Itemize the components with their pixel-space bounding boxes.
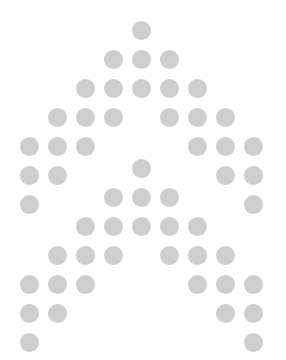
dot: [76, 79, 95, 98]
dot: [132, 217, 151, 236]
dot: [244, 137, 263, 156]
dot: [244, 166, 263, 185]
dot: [48, 246, 67, 265]
dot: [216, 275, 235, 294]
dot: [104, 246, 123, 265]
dot: [188, 137, 207, 156]
dot: [216, 246, 235, 265]
dot: [188, 217, 207, 236]
dot: [216, 137, 235, 156]
dot: [20, 195, 39, 214]
dot: [160, 217, 179, 236]
dot: [76, 275, 95, 294]
dot: [104, 217, 123, 236]
dot: [188, 79, 207, 98]
dot: [76, 137, 95, 156]
dot: [104, 50, 123, 69]
dot: [48, 137, 67, 156]
dot: [160, 188, 179, 207]
dot: [20, 304, 39, 323]
dot: [160, 108, 179, 127]
dot: [132, 79, 151, 98]
dot: [48, 166, 67, 185]
dot: [20, 166, 39, 185]
dot: [104, 108, 123, 127]
dot: [76, 246, 95, 265]
dot: [160, 246, 179, 265]
dot: [20, 137, 39, 156]
dot: [20, 333, 39, 352]
dot: [104, 79, 123, 98]
dot: [216, 304, 235, 323]
dot: [244, 304, 263, 323]
dot: [132, 188, 151, 207]
dot: [48, 108, 67, 127]
dot-pattern-canvas: [0, 0, 286, 360]
dot: [132, 50, 151, 69]
dot: [48, 304, 67, 323]
dot: [188, 275, 207, 294]
dot: [132, 21, 151, 40]
dot: [188, 246, 207, 265]
dot: [188, 108, 207, 127]
dot: [132, 159, 151, 178]
dot: [160, 50, 179, 69]
dot: [104, 188, 123, 207]
dot: [244, 333, 263, 352]
dot: [216, 166, 235, 185]
dot: [244, 275, 263, 294]
dot: [48, 275, 67, 294]
dot: [76, 108, 95, 127]
dot: [76, 217, 95, 236]
dot: [216, 108, 235, 127]
dot: [160, 79, 179, 98]
dot: [20, 275, 39, 294]
dot: [244, 195, 263, 214]
